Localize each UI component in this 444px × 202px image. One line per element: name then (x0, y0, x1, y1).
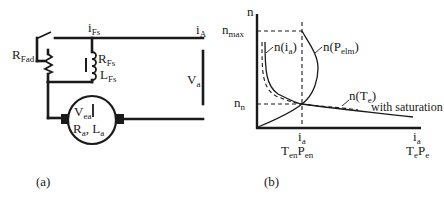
tick-nmax: nmax (222, 22, 244, 39)
tick-te-pe: TePe (406, 143, 429, 160)
tick-ten-pen: TenPen (281, 143, 314, 160)
label-va: Va (187, 72, 200, 89)
caption-a: (a) (36, 174, 50, 189)
saturation-annotation: with saturation (371, 100, 443, 114)
label-ifs: iFs (88, 20, 101, 37)
label-n-pelm: n(Pelm) (323, 39, 359, 56)
leader-n-ia (266, 47, 273, 53)
tick-nn: nn (234, 95, 246, 112)
label-ra-la: Ra, La (73, 121, 104, 138)
circuit-diagram: iFs iA RFad RFs LFs Va Vea Ra, La (a) (12, 20, 207, 189)
caption-b: (b) (264, 174, 279, 189)
brush-left-icon (61, 114, 69, 124)
label-ia: iA (196, 22, 207, 39)
switch-icon (38, 32, 51, 38)
resistor-icon (45, 54, 52, 74)
y-axis-label: n (247, 4, 254, 19)
label-rfs: RFs (98, 51, 116, 68)
label-n-ia: n(ia) (274, 39, 297, 56)
figure-canvas: iFs iA RFad RFs LFs Va Vea Ra, La (a) n … (0, 0, 444, 202)
label-lfs: LFs (100, 67, 117, 84)
characteristic-plot: n nmax nn ia TenPen ia TePe n(ia) n(Pelm… (222, 4, 443, 189)
inductor-icon (92, 52, 96, 80)
leader-n-pelm (315, 47, 322, 53)
leader-n-te (342, 100, 349, 106)
label-rfad: RFad (12, 47, 35, 64)
